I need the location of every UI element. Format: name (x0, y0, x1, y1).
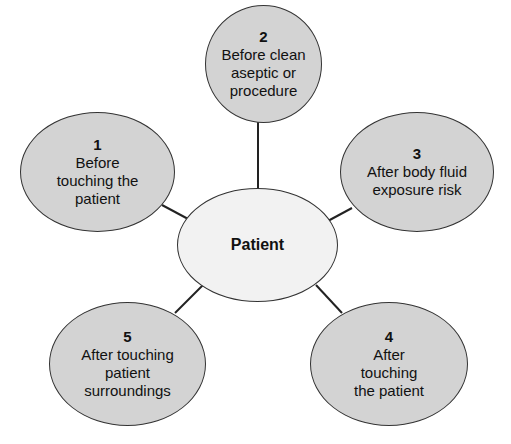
moment-number: 1 (93, 136, 101, 154)
moment-label: After touching (81, 346, 174, 364)
moment-label: patient (75, 190, 120, 208)
moment-label: surroundings (84, 382, 171, 400)
moment-label: touching the (57, 172, 139, 190)
moment-3-node: 3 After body fluid exposure risk (340, 112, 494, 232)
moment-number: 2 (259, 28, 267, 46)
moment-label: Before (75, 154, 119, 172)
moment-number: 5 (123, 328, 131, 346)
moment-label: touching (361, 364, 418, 382)
center-label: Patient (231, 236, 284, 254)
moment-1-node: 1 Before touching the patient (20, 112, 175, 232)
moment-label: the patient (354, 382, 424, 400)
moment-label: patient (105, 364, 150, 382)
moment-4-node: 4 After touching the patient (310, 302, 468, 426)
moment-label: After body fluid (367, 163, 467, 181)
moment-number: 3 (413, 145, 421, 163)
moment-number: 4 (385, 328, 393, 346)
moment-label: exposure risk (372, 181, 461, 199)
patient-center-node: Patient (177, 188, 338, 302)
moment-label: Before clean (221, 46, 305, 64)
moment-label: aseptic or (231, 64, 296, 82)
moment-5-node: 5 After touching patient surroundings (49, 302, 206, 426)
moment-2-node: 2 Before clean aseptic or procedure (205, 5, 322, 123)
moment-label: After (373, 346, 405, 364)
moment-label: procedure (230, 82, 298, 100)
